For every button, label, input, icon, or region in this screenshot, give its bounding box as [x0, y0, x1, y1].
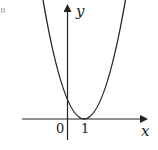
graph-canvas: y x 0 1	[0, 0, 158, 150]
origin-label: 0	[56, 121, 64, 136]
tick-label-1: 1	[81, 121, 89, 136]
square-marker	[2, 9, 5, 12]
x-axis-label: x	[141, 122, 150, 140]
y-axis-label: y	[75, 2, 85, 20]
